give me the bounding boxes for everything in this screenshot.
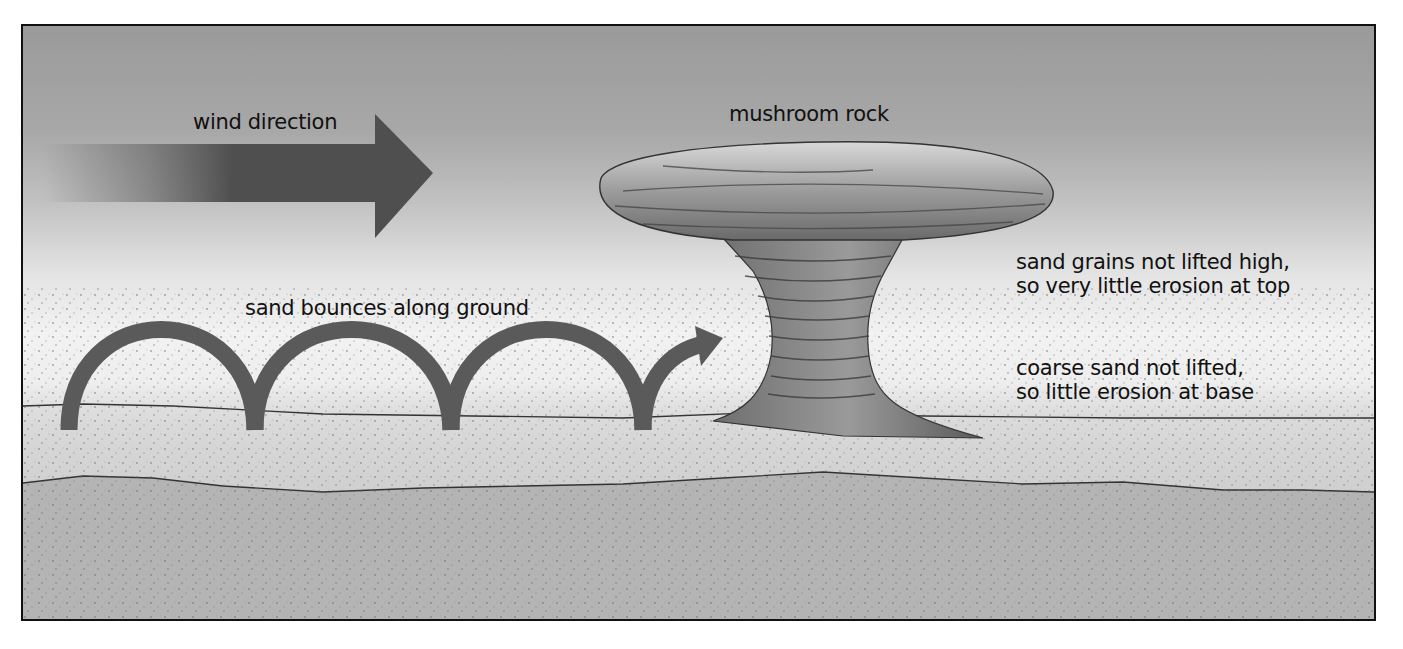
mushroom-rock-label: mushroom rock	[729, 102, 889, 126]
sand-bounces-label: sand bounces along ground	[245, 296, 529, 320]
wind-direction-label: wind direction	[193, 110, 337, 134]
top-erosion-note-line2: so very little erosion at top	[1016, 274, 1290, 298]
top-erosion-note-line1: sand grains not lifted high,	[1016, 250, 1290, 274]
base-erosion-note-line1: coarse sand not lifted,	[1016, 356, 1244, 380]
base-erosion-note-line2: so little erosion at base	[1016, 380, 1254, 404]
diagram-frame: wind direction mushroom rock sand bounce…	[21, 24, 1376, 621]
